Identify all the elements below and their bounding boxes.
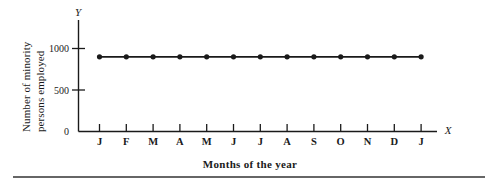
data-point-marker (97, 54, 102, 59)
data-point-marker (311, 54, 316, 59)
month-label-0: J (97, 136, 102, 147)
line-chart: Number of minority persons employed Y X … (0, 0, 485, 185)
month-label-9: O (337, 136, 345, 147)
y-axis-title-line1: Number of minority (20, 41, 32, 132)
data-point-marker (285, 54, 290, 59)
y-tick-label-0: 0 (64, 126, 69, 137)
month-label-7: A (283, 136, 291, 147)
y-tick-label-500: 500 (54, 85, 69, 96)
data-point-marker (258, 54, 263, 59)
data-point-marker (204, 54, 209, 59)
month-label-10: N (364, 136, 372, 147)
month-label-3: A (176, 136, 184, 147)
figure-caption: Months of the year (203, 158, 297, 170)
data-point-marker (151, 54, 156, 59)
data-point-marker (365, 54, 370, 59)
month-label-5: J (231, 136, 236, 147)
data-point-marker (231, 54, 236, 59)
month-label-2: M (148, 136, 158, 147)
figure-container: Number of minority persons employed Y X … (0, 0, 485, 185)
y-axis-title-line2: persons employed (34, 50, 46, 132)
data-point-marker (392, 54, 397, 59)
month-label-12: J (418, 136, 423, 147)
data-point-marker (338, 54, 343, 59)
month-label-11: D (391, 136, 399, 147)
data-point-marker (124, 54, 129, 59)
month-label-1: F (123, 136, 129, 147)
month-label-4: M (202, 136, 212, 147)
month-label-8: S (311, 136, 317, 147)
y-tick-label-1000: 1000 (49, 43, 69, 54)
data-point-marker (419, 54, 424, 59)
month-label-6: J (258, 136, 263, 147)
data-point-marker (177, 54, 182, 59)
x-axis-letter: X (444, 124, 453, 136)
